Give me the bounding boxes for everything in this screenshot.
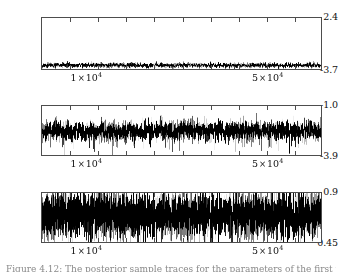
- axis-tick-bottom: [211, 238, 212, 242]
- axis-tick-top: [126, 106, 127, 110]
- axis-tick-top: [98, 18, 99, 22]
- panel-2-xtick-label-2: 5×104: [252, 157, 283, 171]
- panel-1-trace-line: [42, 18, 321, 69]
- axis-tick-bottom: [267, 151, 268, 155]
- axis-tick-bottom: [154, 65, 155, 69]
- axis-tick-top: [183, 193, 184, 197]
- figure-caption-partial: Figure 4.12: The posterior sample traces…: [6, 264, 336, 272]
- axis-tick-top: [239, 193, 240, 197]
- panel-1-plot-area: [41, 17, 322, 70]
- axis-tick-top: [295, 193, 296, 197]
- figure-container: 2.4 -3.7 1×104 5×104 -1.0 -3.9 1×104 5×1…: [0, 0, 338, 272]
- axis-tick-bottom: [295, 238, 296, 242]
- axis-tick-bottom: [70, 151, 71, 155]
- axis-tick-top: [154, 193, 155, 197]
- axis-tick-top: [211, 106, 212, 110]
- panel-3-plot-area: [41, 192, 322, 243]
- axis-tick-bottom: [295, 151, 296, 155]
- panel-3-xtick-label-1: 1×104: [71, 244, 102, 258]
- axis-tick-top: [126, 193, 127, 197]
- axis-tick-top: [239, 106, 240, 110]
- axis-tick-top: [295, 18, 296, 22]
- axis-tick-top: [183, 18, 184, 22]
- axis-tick-bottom: [70, 65, 71, 69]
- axis-tick-top: [239, 18, 240, 22]
- axis-tick-top: [98, 193, 99, 197]
- panel-3-x-axis-labels: 1×104 5×104: [41, 244, 322, 258]
- axis-tick-top: [211, 193, 212, 197]
- axis-tick-top: [267, 193, 268, 197]
- panel-2-xtick-label-1: 1×104: [71, 157, 102, 171]
- panel-3-xtick-label-2: 5×104: [252, 244, 283, 258]
- axis-tick-bottom: [154, 238, 155, 242]
- panel-1-xtick-label-2: 5×104: [252, 71, 283, 85]
- panel-1-x-axis-labels: 1×104 5×104: [41, 71, 322, 85]
- axis-tick-bottom: [154, 151, 155, 155]
- axis-tick-bottom: [183, 238, 184, 242]
- axis-tick-bottom: [239, 65, 240, 69]
- axis-tick-bottom: [239, 151, 240, 155]
- trace-panel-3: 0.9 0.45 1×104 5×104: [0, 192, 338, 264]
- axis-tick-bottom: [98, 238, 99, 242]
- axis-tick-top: [70, 193, 71, 197]
- axis-tick-bottom: [211, 151, 212, 155]
- panel-2-trace-line: [42, 106, 321, 155]
- axis-tick-bottom: [183, 65, 184, 69]
- axis-tick-bottom: [126, 151, 127, 155]
- axis-tick-top: [267, 106, 268, 110]
- axis-tick-top: [211, 18, 212, 22]
- axis-tick-bottom: [267, 238, 268, 242]
- axis-tick-top: [70, 18, 71, 22]
- axis-tick-top: [295, 106, 296, 110]
- axis-tick-top: [154, 106, 155, 110]
- axis-tick-bottom: [239, 238, 240, 242]
- axis-tick-bottom: [126, 65, 127, 69]
- panel-2-x-axis-labels: 1×104 5×104: [41, 157, 322, 171]
- axis-tick-top: [183, 106, 184, 110]
- panel-3-trace-line: [42, 193, 321, 242]
- trace-panel-2: -1.0 -3.9 1×104 5×104: [0, 105, 338, 177]
- axis-tick-top: [267, 18, 268, 22]
- axis-tick-bottom: [98, 65, 99, 69]
- axis-tick-top: [70, 106, 71, 110]
- trace-panel-1: 2.4 -3.7 1×104 5×104: [0, 17, 338, 89]
- axis-tick-bottom: [183, 151, 184, 155]
- axis-tick-bottom: [126, 238, 127, 242]
- axis-tick-bottom: [70, 238, 71, 242]
- axis-tick-top: [126, 18, 127, 22]
- axis-tick-bottom: [295, 65, 296, 69]
- axis-tick-bottom: [267, 65, 268, 69]
- axis-tick-top: [154, 18, 155, 22]
- axis-tick-bottom: [98, 151, 99, 155]
- axis-tick-top: [98, 106, 99, 110]
- axis-tick-bottom: [211, 65, 212, 69]
- panel-1-xtick-label-1: 1×104: [71, 71, 102, 85]
- panel-2-plot-area: [41, 105, 322, 156]
